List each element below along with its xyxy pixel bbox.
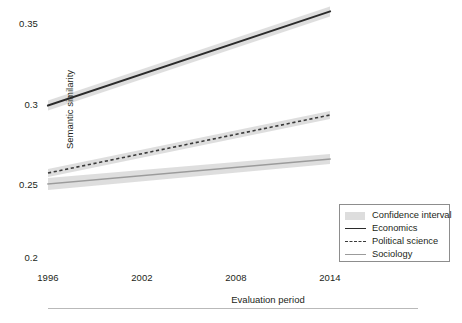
chart-legend: Confidence interval Economics Political …	[339, 204, 450, 262]
line-economics	[48, 12, 330, 106]
figure-canvas: Semantic similarity Evaluation period 0.…	[0, 0, 462, 323]
x-axis-title: Evaluation period	[168, 294, 368, 305]
legend-label-economics: Economics	[372, 223, 417, 234]
y-axis-title: Semantic similarity	[64, 45, 75, 175]
legend-swatch-dashed-line-icon	[345, 236, 367, 247]
chart-plot-svg	[48, 8, 330, 260]
x-tick-label-1996: 1996	[26, 272, 70, 283]
y-tick-label-0.25: 0.25	[4, 179, 38, 190]
plot-area: Semantic similarity Evaluation period	[48, 8, 330, 260]
legend-swatch-solid-line-icon	[345, 223, 367, 234]
y-tick-label-0.35: 0.35	[4, 18, 38, 29]
legend-swatch-band-icon	[345, 210, 367, 221]
legend-item-sociology: Sociology	[345, 248, 449, 261]
legend-swatch-light-line-icon	[345, 249, 367, 260]
bottom-divider	[48, 308, 418, 309]
x-tick-label-2014: 2014	[308, 272, 352, 283]
x-tick-label-2008: 2008	[214, 272, 258, 283]
y-tick-label-0.3: 0.3	[4, 99, 38, 110]
legend-item-political-science: Political science	[345, 235, 449, 248]
y-tick-label-0.2: 0.2	[4, 252, 38, 263]
x-tick-label-2002: 2002	[120, 272, 164, 283]
legend-label-sociology: Sociology	[372, 249, 412, 260]
legend-label-confidence-interval: Confidence interval	[372, 210, 452, 221]
legend-label-political-science: Political science	[372, 236, 438, 247]
legend-item-economics: Economics	[345, 222, 449, 235]
legend-item-confidence-interval: Confidence interval	[345, 209, 449, 222]
